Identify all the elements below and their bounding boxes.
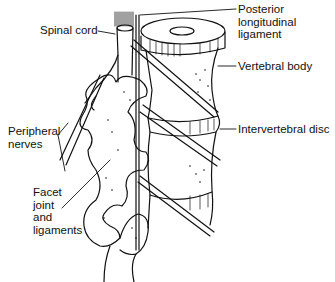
vertebral-body-lower	[148, 132, 216, 228]
stipple	[103, 69, 211, 239]
label-peripheral-nerves: Peripheral nerves	[8, 125, 60, 150]
label-facet-joint: Facet joint and ligaments	[33, 186, 82, 236]
posterior-elements	[80, 75, 149, 282]
label-posterior-longitudinal-ligament: Posterior longitudinal ligament	[238, 3, 296, 41]
label-spinal-cord: Spinal cord	[40, 24, 98, 37]
intervertebral-disc-shape	[148, 116, 220, 136]
label-intervertebral-disc: Intervertebral disc	[238, 123, 329, 136]
diagonal-nerves	[60, 40, 220, 236]
spine-diagram: Spinal cord Posterior longitudinal ligam…	[0, 0, 335, 282]
spinal-cord-fibers	[115, 12, 133, 26]
vertebral-body-top	[141, 18, 225, 118]
label-vertebral-body: Vertebral body	[238, 60, 312, 73]
